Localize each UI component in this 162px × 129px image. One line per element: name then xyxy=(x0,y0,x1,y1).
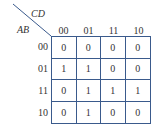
column-header: 01 xyxy=(76,25,101,36)
kmap-cell: 0 xyxy=(126,102,151,124)
karnaugh-map: CD AB 00 01 11 10 00 01 11 10 0 0 0 0 1 … xyxy=(0,0,162,129)
kmap-cell: 0 xyxy=(52,37,77,59)
kmap-cell: 0 xyxy=(101,37,126,59)
kmap-cell: 0 xyxy=(126,59,151,81)
row-header: 01 xyxy=(30,63,48,74)
kmap-cell: 0 xyxy=(52,80,77,102)
kmap-cell: 0 xyxy=(77,37,102,59)
kmap-cell: 1 xyxy=(126,80,151,102)
column-header: 10 xyxy=(126,25,151,36)
kmap-cell: 1 xyxy=(77,80,102,102)
kmap-cell: 0 xyxy=(101,102,126,124)
column-variable-label: CD xyxy=(31,8,45,19)
row-header: 00 xyxy=(30,41,48,52)
kmap-cell: 0 xyxy=(52,102,77,124)
column-header: 11 xyxy=(101,25,126,36)
column-header: 00 xyxy=(51,25,76,36)
row-variable-label: AB xyxy=(17,24,29,35)
kmap-cell: 1 xyxy=(101,80,126,102)
kmap-cell: 1 xyxy=(77,102,102,124)
kmap-grid: 0 0 0 0 1 1 0 0 0 1 1 1 0 1 0 0 xyxy=(51,36,151,124)
kmap-cell: 1 xyxy=(77,59,102,81)
kmap-cell: 1 xyxy=(52,59,77,81)
row-header: 11 xyxy=(30,85,48,96)
kmap-cell: 0 xyxy=(101,59,126,81)
row-header: 10 xyxy=(30,107,48,118)
kmap-cell: 0 xyxy=(126,37,151,59)
